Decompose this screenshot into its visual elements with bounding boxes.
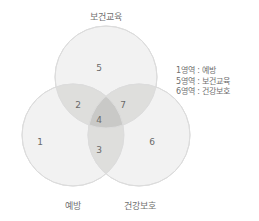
- circle-label-top: 보건교육: [56, 10, 156, 23]
- circle-label-bottom-right: 건강보호: [90, 199, 190, 212]
- region-number: 4: [92, 115, 106, 125]
- region-number: 5: [92, 63, 106, 73]
- region-number: 1: [33, 137, 47, 147]
- region-number: 3: [92, 145, 106, 155]
- legend: 1영역 : 예방 5영역 : 보건교육 6영역 : 건강보호: [176, 66, 258, 98]
- legend-item: 5영역 : 보건교육: [176, 77, 258, 88]
- region-number: 2: [71, 100, 85, 110]
- venn-diagram-figure: 보건교육 예방 건강보호 1 2 3 4 5 6 7 1영역 : 예방 5영역 …: [0, 0, 259, 221]
- venn-circles-graphic: [0, 0, 259, 221]
- legend-item: 1영역 : 예방: [176, 66, 258, 77]
- region-number: 6: [145, 137, 159, 147]
- region-number: 7: [116, 100, 130, 110]
- legend-item: 6영역 : 건강보호: [176, 87, 258, 98]
